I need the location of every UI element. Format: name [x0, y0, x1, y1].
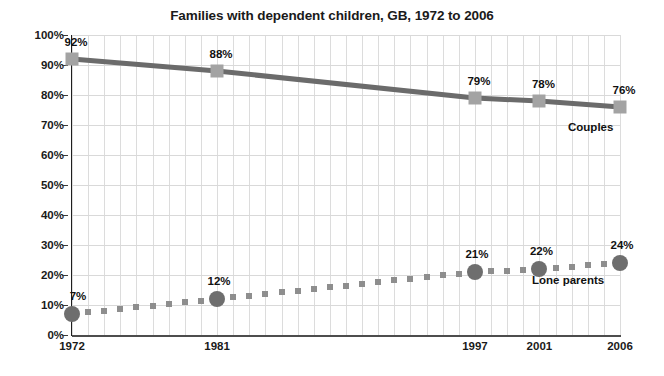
data-point-label-couples: 78%	[532, 78, 555, 90]
lone-parents-line-dot	[359, 281, 365, 287]
data-point-marker-couples[interactable]	[211, 65, 224, 78]
lone-parents-line-dot	[311, 286, 317, 292]
data-point-marker-couples[interactable]	[614, 101, 627, 114]
y-axis-tick-label: 100%	[20, 29, 64, 41]
lone-parents-line-dot	[327, 284, 333, 290]
lone-parents-line-dot	[520, 267, 526, 273]
x-axis-tick-label: 2006	[607, 340, 633, 352]
y-axis-tick-label: 0%	[20, 329, 64, 341]
lone-parents-line-dot	[391, 277, 397, 283]
lone-parents-line-dot	[424, 274, 430, 280]
lone-parents-line-dot	[488, 268, 494, 274]
lone-parents-line-dot	[601, 261, 607, 267]
lone-parents-line-dot	[246, 293, 252, 299]
lone-parents-line-dot	[262, 291, 268, 297]
y-axis-tick-label: 60%	[20, 149, 64, 161]
y-axis-tick-label: 50%	[20, 179, 64, 191]
y-axis-tick-mark	[62, 215, 68, 216]
data-point-label-lone-parents: 22%	[530, 245, 553, 257]
y-axis-tick-mark	[62, 245, 68, 246]
y-axis-tick-label: 10%	[20, 299, 64, 311]
data-point-marker-couples[interactable]	[533, 95, 546, 108]
y-axis-tick-label: 40%	[20, 209, 64, 221]
lone-parents-line-dot	[569, 264, 575, 270]
y-axis-tick-label: 30%	[20, 239, 64, 251]
y-axis-tick-label: 20%	[20, 269, 64, 281]
y-axis-tick-labels: 0%10%20%30%40%50%60%70%80%90%100%	[14, 35, 64, 336]
data-point-label-lone-parents: 21%	[465, 248, 488, 260]
lone-parents-line-dot	[117, 306, 123, 312]
chart-title: Families with dependent children, GB, 19…	[0, 8, 664, 23]
lone-parents-line-dot	[182, 299, 188, 305]
data-point-marker-lone-parents[interactable]	[209, 291, 225, 307]
series-label-lone-parents: Lone parents	[532, 274, 604, 286]
y-axis-tick-mark	[62, 335, 68, 336]
y-axis-tick-label: 70%	[20, 119, 64, 131]
data-point-label-lone-parents: 7%	[70, 290, 87, 302]
lone-parents-line-dot	[85, 309, 91, 315]
data-point-label-couples: 76%	[612, 84, 635, 96]
data-point-marker-couples[interactable]	[66, 53, 79, 66]
lone-parents-line-dot	[198, 298, 204, 304]
lone-parents-line-dot	[375, 279, 381, 285]
lone-parents-line-dot	[585, 262, 591, 268]
series-label-couples: Couples	[568, 121, 613, 133]
data-point-marker-lone-parents[interactable]	[64, 306, 80, 322]
y-axis-tick-label: 80%	[20, 89, 64, 101]
data-point-marker-lone-parents[interactable]	[612, 255, 628, 271]
lone-parents-line-dot	[295, 288, 301, 294]
lone-parents-line-dot	[456, 271, 462, 277]
y-axis-tick-mark	[62, 275, 68, 276]
x-axis-tick-label: 1972	[59, 340, 85, 352]
x-axis-tick-label: 2001	[527, 340, 553, 352]
gridline-vertical	[620, 35, 621, 335]
plot-area: 92%88%79%78%76% 7%12%21%22%24% CouplesLo…	[72, 35, 620, 335]
lone-parents-line-dot	[504, 268, 510, 274]
y-axis-tick-label: 90%	[20, 59, 64, 71]
chart-container: Families with dependent children, GB, 19…	[0, 0, 664, 376]
y-axis-tick-mark	[62, 155, 68, 156]
x-axis-tick-label: 1981	[204, 340, 230, 352]
lone-parents-line-dot	[279, 289, 285, 295]
data-point-label-couples: 92%	[64, 36, 87, 48]
lone-parents-line-dot	[101, 308, 107, 314]
lone-parents-line-dot	[553, 265, 559, 271]
x-axis-tick-label: 1997	[462, 340, 488, 352]
data-point-marker-lone-parents[interactable]	[467, 264, 483, 280]
lone-parents-line-dot	[440, 272, 446, 278]
lone-parents-line-dot	[150, 303, 156, 309]
data-point-label-lone-parents: 24%	[610, 239, 633, 251]
y-axis-tick-mark	[62, 95, 68, 96]
x-axis-line	[72, 335, 621, 337]
lone-parents-line-dot	[343, 283, 349, 289]
y-axis-tick-mark	[62, 305, 68, 306]
lone-parents-line-dot	[407, 276, 413, 282]
data-point-label-couples: 88%	[210, 48, 233, 60]
data-point-label-couples: 79%	[467, 75, 490, 87]
y-axis-tick-mark	[62, 185, 68, 186]
lone-parents-line-dot	[230, 294, 236, 300]
data-point-label-lone-parents: 12%	[208, 275, 231, 287]
data-point-marker-couples[interactable]	[468, 92, 481, 105]
lone-parents-line-dot	[133, 304, 139, 310]
y-axis-tick-mark	[62, 125, 68, 126]
lone-parents-line-dot	[166, 301, 172, 307]
